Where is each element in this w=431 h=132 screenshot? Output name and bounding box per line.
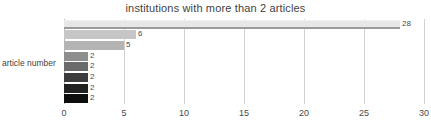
bar <box>64 84 88 93</box>
gridline-25 <box>364 19 365 104</box>
x-tick-label-5: 5 <box>121 108 126 118</box>
bar-value-label: 2 <box>90 83 94 92</box>
bar <box>64 41 124 50</box>
x-tick-label-15: 15 <box>239 108 249 118</box>
x-tick-label-30: 30 <box>419 108 429 118</box>
y-axis-title: article number <box>2 58 62 68</box>
bar-value-label: 2 <box>90 61 94 70</box>
bar-value-label: 2 <box>90 93 94 102</box>
bar <box>64 73 88 82</box>
bar <box>64 94 88 103</box>
x-tick-label-0: 0 <box>61 108 66 118</box>
gridline-20 <box>304 19 305 104</box>
gridline-30 <box>424 19 425 104</box>
plot-area: 286522222 <box>64 19 424 104</box>
gridline-10 <box>184 19 185 104</box>
chart-title: institutions with more than 2 articles <box>0 2 431 14</box>
x-tick-label-10: 10 <box>179 108 189 118</box>
bar <box>64 52 88 61</box>
x-tick-label-20: 20 <box>299 108 309 118</box>
bar-chart-figure: institutions with more than 2 articles a… <box>0 0 431 132</box>
gridline-15 <box>244 19 245 104</box>
bar-value-label: 2 <box>90 72 94 81</box>
x-tick-label-25: 25 <box>359 108 369 118</box>
bar-value-label: 5 <box>126 40 130 49</box>
bar-value-label: 28 <box>402 19 411 28</box>
bar-value-label: 6 <box>138 29 142 38</box>
bar <box>64 20 400 29</box>
bar <box>64 30 136 39</box>
bar-value-label: 2 <box>90 51 94 60</box>
bar <box>64 62 88 71</box>
